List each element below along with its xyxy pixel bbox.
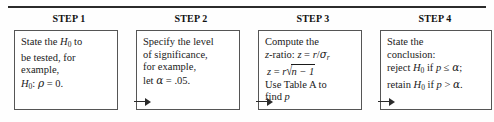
step3-line-1: Compute the — [265, 36, 361, 48]
sigma-symbol: σ — [320, 48, 327, 60]
step4-line-2: conclusion: — [387, 49, 491, 62]
step4-retain-text: retain — [387, 79, 414, 90]
step4-gt-operator: > — [442, 79, 453, 90]
square-root-expression: √n − 1 — [286, 64, 315, 79]
step-header-3: STEP 3 — [252, 11, 374, 27]
step4-if-text-2: if — [425, 79, 437, 90]
step2-let-text: let — [143, 75, 156, 86]
sigma-subscript-r: r — [327, 53, 330, 62]
step-boxes-row: State the H0 to be tested, for example, … — [14, 30, 480, 110]
step-header-4: STEP 4 — [374, 11, 494, 27]
step1-H0-symbol: H — [21, 78, 29, 89]
step3-equals: = — [301, 49, 312, 60]
step-header-2: STEP 2 — [130, 11, 252, 27]
step4-period: . — [460, 79, 463, 90]
step4-H-symbol-1: H — [413, 62, 421, 73]
alpha-symbol-2: α — [453, 78, 460, 90]
arrow-head-icon — [389, 98, 395, 106]
step2-line-3: for example, — [143, 61, 239, 74]
step4-leq-operator: ≤ — [441, 62, 452, 73]
step-header-1: STEP 1 — [8, 11, 130, 27]
arrow-step2-to-step3 — [256, 96, 274, 107]
step-box-1: State the H0 to be tested, for example, … — [14, 30, 118, 110]
flowchart-figure: STEP 1 STEP 2 STEP 3 STEP 4 State the H0… — [0, 0, 494, 122]
step4-reject-text: reject — [387, 62, 413, 73]
step4-reject-rule: reject H0 if p ≤ α; — [387, 61, 491, 78]
step1-line-2: be tested, for — [21, 52, 117, 65]
step1-H-symbol: H — [60, 36, 68, 47]
step3-p-var: p — [285, 91, 290, 102]
step1-text-b: to — [71, 36, 82, 47]
step3-equals2: = — [271, 66, 282, 77]
radicand-n-minus-1: n − 1 — [291, 64, 315, 79]
step4-if-text-1: if — [424, 62, 436, 73]
step1-line-1: State the H0 to — [21, 36, 117, 52]
step3-line-5: find p — [265, 91, 361, 103]
arrow-head-icon — [145, 98, 151, 106]
step4-line-1: State the — [387, 36, 491, 49]
step2-line-1: Specify the level — [143, 36, 239, 49]
step3-line-4: Use Table A to — [265, 79, 361, 91]
top-horizontal-rule — [8, 6, 486, 8]
step1-line-3: example, — [21, 64, 117, 77]
step-box-4: State the conclusion: reject H0 if p ≤ α… — [380, 30, 492, 110]
arrow-head-icon — [267, 98, 273, 106]
step-headers-row: STEP 1 STEP 2 STEP 3 STEP 4 — [0, 11, 494, 27]
step2-line-2: of significance, — [143, 49, 239, 62]
step1-text-a: State the — [21, 36, 60, 47]
step2-line-4: let α = .05. — [143, 74, 239, 88]
arrow-step1-to-step2 — [134, 96, 152, 107]
step4-H-symbol-2: H — [414, 79, 422, 90]
step1-equals-zero: = 0. — [44, 78, 63, 89]
step2-alpha-value: = .05. — [163, 75, 190, 86]
radical-icon: √ — [286, 63, 292, 80]
step3-ratio-text: -ratio: — [269, 49, 297, 60]
step3-sqrt-formula: z = r√n − 1 — [265, 64, 361, 79]
step4-retain-rule: retain H0 if p > α. — [387, 78, 491, 95]
arrow-step3-to-step4 — [378, 96, 396, 107]
step4-semicolon: ; — [459, 62, 462, 73]
step3-zratio-formula: z-ratio: z = r/σr — [265, 48, 361, 64]
step1-line-4: H0: ρ = 0. — [21, 77, 117, 94]
